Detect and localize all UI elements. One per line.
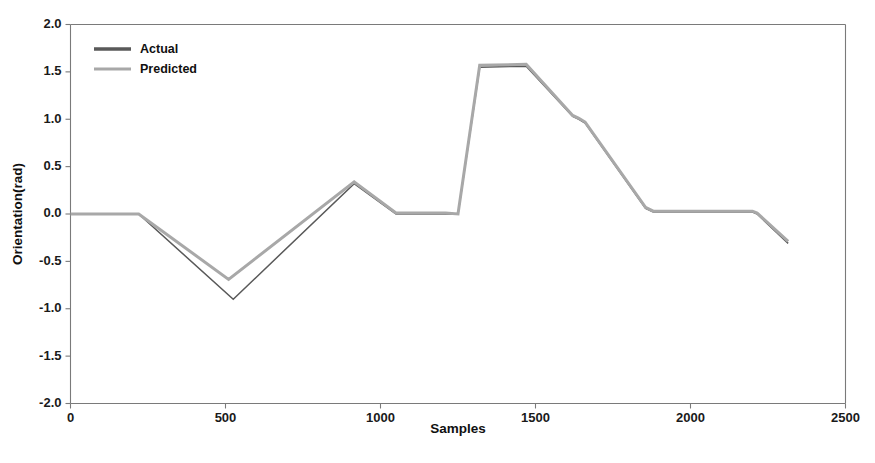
line-chart: -2.0-1.5-1.0-0.50.00.51.01.52.0 05001000… <box>0 0 875 463</box>
legend-label-predicted: Predicted <box>140 62 197 76</box>
chart-figure: -2.0-1.5-1.0-0.50.00.51.01.52.0 05001000… <box>0 0 875 463</box>
legend: Actual Predicted <box>94 42 197 76</box>
y-tick-label: 1.0 <box>43 111 61 126</box>
x-tick-label: 1500 <box>521 410 550 425</box>
x-tick-label: 2500 <box>831 410 860 425</box>
series-line-predicted <box>71 64 789 279</box>
y-tick-label: 0.5 <box>43 158 61 173</box>
x-tick-label: 0 <box>67 410 74 425</box>
x-tick-label: 1000 <box>366 410 395 425</box>
x-tick-label: 500 <box>215 410 237 425</box>
series-group <box>71 64 789 299</box>
y-tick-label: -1.0 <box>39 300 61 315</box>
y-axis-title: Orientation(rad) <box>10 163 25 265</box>
y-tick-label: 2.0 <box>43 16 61 31</box>
y-tick-label: 1.5 <box>43 63 61 78</box>
y-tick-label: 0.0 <box>43 205 61 220</box>
y-axis-ticks: -2.0-1.5-1.0-0.50.00.51.01.52.0 <box>39 16 70 410</box>
y-tick-label: -2.0 <box>39 395 61 410</box>
y-tick-label: -0.5 <box>39 253 61 268</box>
x-axis-title: Samples <box>430 421 486 436</box>
y-tick-label: -1.5 <box>39 348 61 363</box>
x-tick-label: 2000 <box>676 410 705 425</box>
series-line-actual <box>71 66 789 299</box>
legend-label-actual: Actual <box>140 42 178 56</box>
